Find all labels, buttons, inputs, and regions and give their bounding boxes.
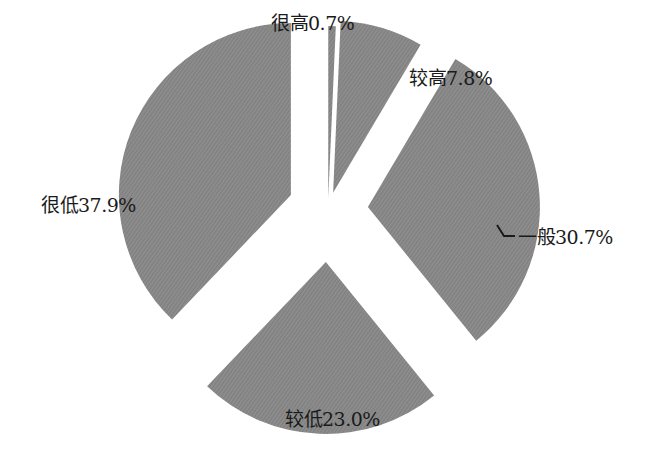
label-very-high: 很高0.7% xyxy=(271,8,354,35)
pie-slice-medium xyxy=(368,59,540,341)
label-medium: 一般30.7% xyxy=(518,222,613,249)
pie-slice-very-low xyxy=(119,23,291,319)
label-low: 较低23.0% xyxy=(285,404,380,431)
label-very-low: 很低37.9% xyxy=(41,190,136,217)
label-high: 较高7.8% xyxy=(409,63,492,90)
